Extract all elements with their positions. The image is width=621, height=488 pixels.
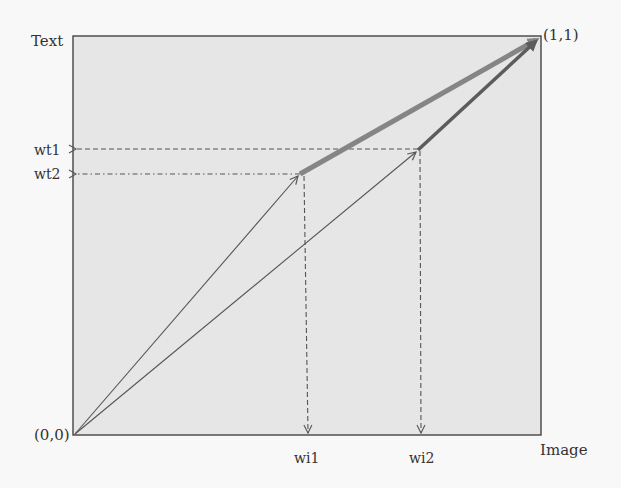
wi1-label: wi1	[294, 451, 319, 465]
corner-label: (1,1)	[543, 28, 579, 43]
wt1-label: wt1	[34, 143, 61, 157]
wi2-label: wi2	[409, 451, 434, 465]
x-axis-label: Image	[540, 443, 588, 458]
y-axis-label: Text	[31, 34, 63, 49]
diagram-canvas: Text (1,1) wt1 wt2 (0,0) wi1 wi2 Image	[0, 0, 621, 488]
wt2-label: wt2	[34, 167, 61, 181]
origin-label: (0,0)	[34, 428, 70, 443]
plot-area	[73, 36, 541, 435]
vector-diagram	[0, 0, 621, 488]
